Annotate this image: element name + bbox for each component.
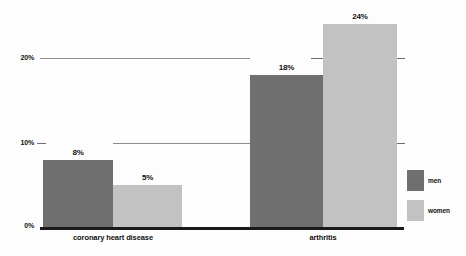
legend-label-women: women (428, 207, 450, 214)
legend-label-men: men (428, 177, 441, 184)
bar-value-women-coronary-heart-disease: 5% (113, 173, 182, 182)
legend-swatch-men-icon (407, 170, 424, 191)
gridline-10-mid (113, 143, 250, 144)
legend: men women (407, 170, 465, 226)
bar-women-arthritis[interactable] (323, 24, 397, 228)
y-axis-tick-label-0: 0% (8, 222, 34, 230)
bar-men-coronary-heart-disease[interactable] (43, 160, 113, 228)
bar-women-coronary-heart-disease[interactable] (113, 185, 182, 228)
legend-item-women[interactable]: women (407, 200, 465, 226)
category-label-arthritis: arthritis (263, 233, 383, 242)
bar-value-women-arthritis: 24% (323, 12, 397, 21)
legend-swatch-women-icon (407, 200, 424, 221)
x-axis-line (40, 227, 404, 230)
gridline-20-left (40, 58, 250, 59)
legend-item-men[interactable]: men (407, 170, 465, 196)
bar-chart: 20% 10% 0% 8% 5% 18% 24% coronary heart … (0, 0, 466, 256)
bar-value-men-arthritis: 18% (250, 63, 323, 72)
bar-men-arthritis[interactable] (250, 75, 323, 228)
y-axis-tick-label-10: 10% (8, 139, 34, 147)
y-axis-tick-label-20: 20% (8, 54, 34, 62)
gridline-10-axis-tick (37, 143, 46, 144)
category-label-coronary-heart-disease: coronary heart disease (33, 233, 193, 242)
bar-value-men-coronary-heart-disease: 8% (43, 148, 113, 157)
